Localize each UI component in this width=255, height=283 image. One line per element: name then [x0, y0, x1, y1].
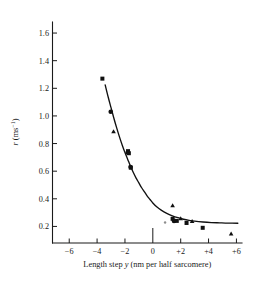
data-point-small-dot — [164, 221, 166, 223]
x-axis-title: Length step y (nm per half sarcomere) — [83, 260, 211, 269]
x-tick-label: −4 — [93, 247, 102, 256]
data-point-circle — [108, 109, 113, 114]
y-tick-label: 1.6 — [39, 29, 49, 38]
x-tick-label: −2 — [121, 247, 130, 256]
y-tick-label: 1.4 — [39, 57, 49, 66]
chart-figure: 0.20.40.60.81.01.21.41.6 −6−4−20+2+4+6 r… — [0, 0, 255, 283]
data-point-circle — [125, 150, 130, 155]
x-tick-label: +2 — [176, 247, 185, 256]
scatter-plot: 0.20.40.60.81.01.21.41.6 −6−4−20+2+4+6 r… — [0, 0, 255, 283]
fit-curve — [105, 85, 238, 223]
y-tick-label: 0.8 — [39, 140, 49, 149]
data-point-triangle — [111, 129, 116, 133]
x-axis-tick-labels: −6−4−20+2+4+6 — [65, 247, 241, 256]
data-point-square — [201, 226, 205, 230]
data-point-triangle — [229, 232, 234, 236]
data-point-circle — [128, 165, 133, 170]
x-tick-label: −6 — [65, 247, 74, 256]
y-tick-label: 1.0 — [39, 112, 49, 121]
y-axis-ticks — [53, 33, 58, 226]
data-point-triangle — [170, 203, 175, 207]
data-markers — [100, 77, 233, 236]
data-point-square — [185, 221, 189, 225]
data-point-square — [100, 77, 104, 81]
y-axis-title: r (ms−1) — [10, 118, 20, 145]
x-tick-label: +4 — [204, 247, 213, 256]
y-axis-tick-labels: 0.20.40.60.81.01.21.41.6 — [39, 29, 49, 231]
data-point-circle — [172, 219, 177, 224]
x-tick-label: +6 — [232, 247, 241, 256]
x-tick-label: 0 — [151, 247, 155, 256]
y-tick-label: 1.2 — [39, 84, 49, 93]
y-tick-label: 0.6 — [39, 167, 49, 176]
y-tick-label: 0.4 — [39, 195, 49, 204]
y-tick-label: 0.2 — [39, 222, 49, 231]
